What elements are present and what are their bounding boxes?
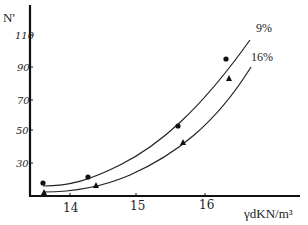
x-tick-14: 14 bbox=[63, 201, 79, 215]
y-tick-70: 70 bbox=[17, 95, 30, 106]
y-tick-90: 90 bbox=[17, 62, 30, 73]
y-axis-label: N' bbox=[3, 10, 15, 25]
triangle-marker-icon bbox=[226, 75, 232, 81]
x-tick-15: 15 bbox=[130, 199, 145, 213]
circle-marker-icon bbox=[175, 123, 180, 128]
series-label-16: 16% bbox=[251, 50, 273, 64]
x-tick-16: 16 bbox=[199, 198, 214, 212]
circle-marker-icon bbox=[223, 56, 228, 61]
series-label-9: 9% bbox=[256, 21, 272, 35]
y-tick-110: 110 bbox=[15, 30, 35, 41]
triangle-marker-icon bbox=[93, 182, 99, 188]
y-tick-30: 30 bbox=[16, 158, 29, 169]
curve-16-percent bbox=[43, 67, 251, 192]
circle-marker-icon bbox=[85, 174, 90, 179]
markers-9-percent bbox=[40, 56, 228, 185]
chart: 110 90 70 50 30 N' 14 15 16 γdKN/m³ 9% 1… bbox=[0, 0, 308, 225]
y-tick-50: 50 bbox=[16, 125, 29, 136]
circle-marker-icon bbox=[40, 180, 45, 185]
x-axis-label: γdKN/m³ bbox=[243, 206, 293, 221]
markers-16-percent bbox=[41, 75, 232, 195]
curve-9-percent bbox=[43, 40, 250, 186]
